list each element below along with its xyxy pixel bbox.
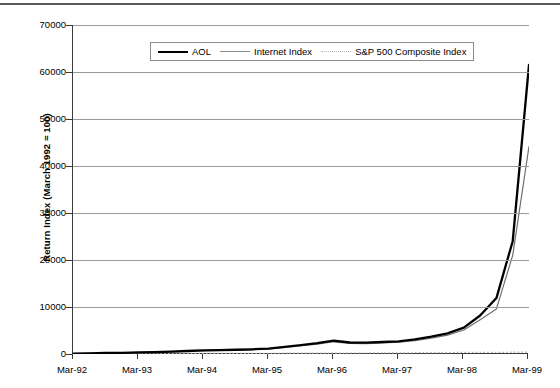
x-tick-label-mar-94: Mar-94 <box>167 364 237 375</box>
series-lines <box>73 25 529 354</box>
y-tick-label-30000: 30000 <box>6 208 66 218</box>
x-tick-label-mar-97: Mar-97 <box>362 364 432 375</box>
x-tick-mark-mar-93 <box>137 354 138 359</box>
x-tick-label-mar-93: Mar-93 <box>102 364 172 375</box>
x-tick-mark-mar-94 <box>202 354 203 359</box>
legend-label-sp500: S&P 500 Composite Index <box>355 47 466 57</box>
chart-figure: Return Index (March 1992 = 100) 70000 60… <box>0 0 560 388</box>
y-tick-label-10000: 10000 <box>6 302 66 312</box>
x-tick-label-mar-99: Mar-99 <box>492 364 560 375</box>
x-tick-mark-mar-96 <box>332 354 333 359</box>
x-tick-mark-mar-98 <box>462 354 463 359</box>
series-line-internet-index <box>73 146 529 353</box>
gridline-70000 <box>73 25 529 26</box>
y-tick-label-20000: 20000 <box>6 255 66 265</box>
y-tick-label-40000: 40000 <box>6 161 66 171</box>
legend-entry-sp500: S&P 500 Composite Index <box>321 47 466 57</box>
gridline-60000 <box>73 72 529 73</box>
y-tick-label-70000: 70000 <box>6 20 66 30</box>
legend-swatch-sp500-icon <box>321 47 351 56</box>
gridline-20000 <box>73 260 529 261</box>
x-tick-label-mar-96: Mar-96 <box>297 364 367 375</box>
gridline-10000 <box>73 307 529 308</box>
x-tick-label-mar-98: Mar-98 <box>427 364 497 375</box>
y-tick-label-60000: 60000 <box>6 67 66 77</box>
legend-entry-aol: AOL <box>158 47 211 57</box>
y-tick-label-0: 0 <box>6 349 66 359</box>
legend-label-aol: AOL <box>192 47 211 57</box>
gridline-50000 <box>73 119 529 120</box>
x-tick-mark-mar-95 <box>267 354 268 359</box>
plot-area <box>72 25 528 354</box>
legend-label-internet-index: Internet Index <box>254 47 312 57</box>
page-top-rule <box>0 3 560 5</box>
x-tick-mark-mar-97 <box>397 354 398 359</box>
chart-legend: AOL Internet Index S&P 500 Composite Ind… <box>150 42 474 61</box>
x-tick-label-mar-92: Mar-92 <box>37 364 107 375</box>
legend-swatch-internet-index-icon <box>220 47 250 56</box>
x-tick-mark-mar-99 <box>527 354 528 359</box>
y-tick-label-50000: 50000 <box>6 114 66 124</box>
x-tick-mark-mar-92 <box>72 354 73 359</box>
series-line-aol <box>73 65 529 354</box>
gridline-40000 <box>73 166 529 167</box>
legend-swatch-aol-icon <box>158 47 188 56</box>
legend-entry-internet-index: Internet Index <box>220 47 312 57</box>
gridline-30000 <box>73 213 529 214</box>
x-tick-label-mar-95: Mar-95 <box>232 364 302 375</box>
y-axis-title: Return Index (March 1992 = 100) <box>41 38 52 338</box>
